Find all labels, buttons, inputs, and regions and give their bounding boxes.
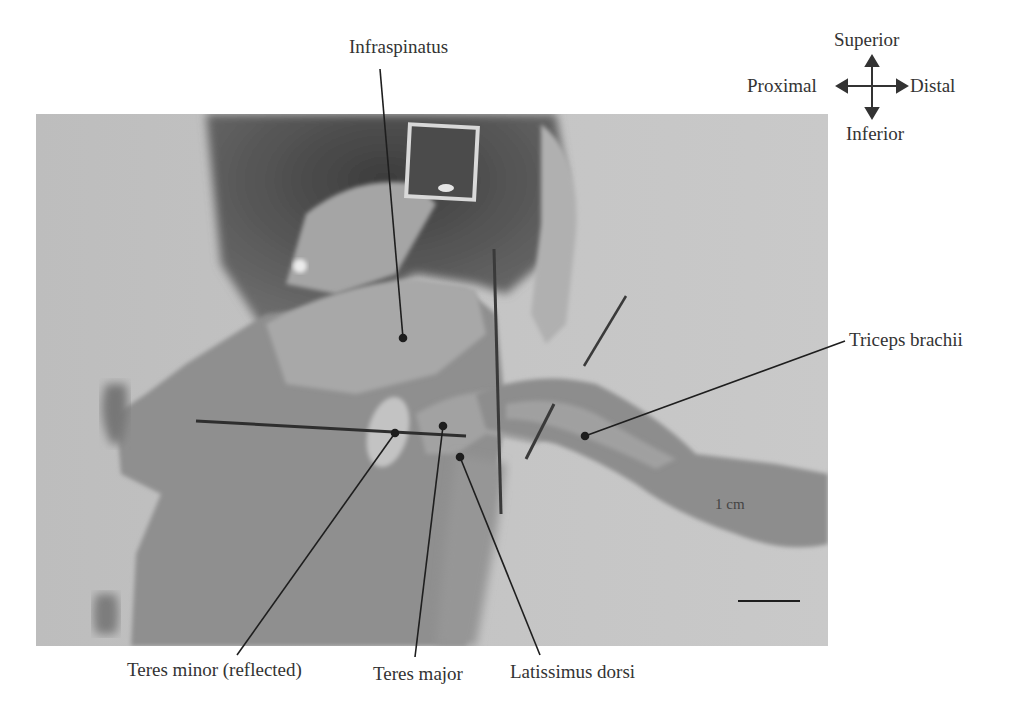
dissection-photograph	[36, 114, 828, 646]
specimen-illustration	[36, 114, 828, 646]
label-infraspinatus: Infraspinatus	[349, 37, 448, 56]
arrow-left-icon	[837, 80, 847, 92]
arrow-up-icon	[866, 56, 878, 66]
scale-bar-label: 1 cm	[715, 496, 745, 513]
arrow-down-icon	[866, 108, 878, 118]
label-latissimus-dorsi: Latissimus dorsi	[510, 662, 635, 681]
anatomy-figure: 1 cm Superior Proximal Distal Inferi	[0, 0, 1019, 711]
orientation-superior: Superior	[834, 30, 899, 49]
label-triceps-brachii: Triceps brachii	[849, 330, 963, 349]
orientation-proximal: Proximal	[747, 76, 817, 95]
label-teres-minor: Teres minor (reflected)	[127, 660, 302, 679]
orientation-compass-arrows	[837, 56, 907, 118]
orientation-distal: Distal	[910, 76, 955, 95]
label-teres-major: Teres major	[373, 664, 463, 683]
arrow-right-icon	[897, 80, 907, 92]
orientation-inferior: Inferior	[846, 124, 904, 143]
